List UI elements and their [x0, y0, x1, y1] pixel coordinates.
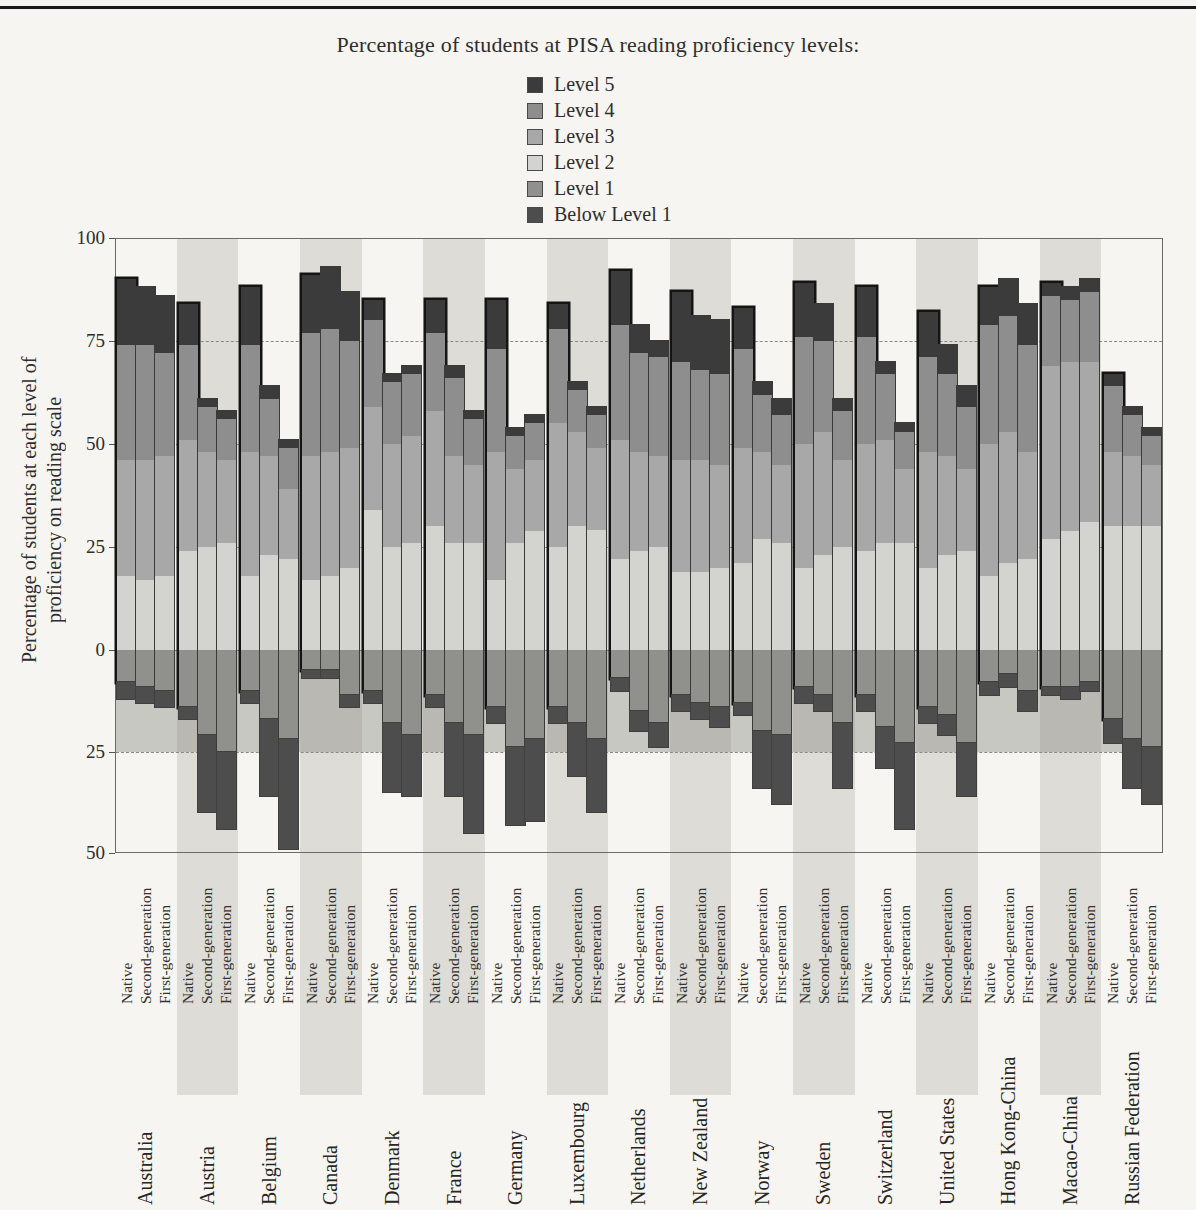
y-tick-label-75: 75	[61, 330, 105, 352]
segment-level-5	[1042, 283, 1061, 295]
segment-level-5	[279, 440, 298, 448]
segment-level-4	[857, 337, 876, 444]
segment-level-3	[1042, 366, 1061, 539]
bar-type-label-text: Second-generation	[445, 859, 463, 1004]
segment-level-3	[155, 456, 174, 575]
segment-level-5	[999, 279, 1018, 316]
segment-level-3	[302, 456, 321, 580]
bar-hong-kong-china-native	[980, 287, 999, 682]
y-tick-label-100: 100	[61, 227, 105, 249]
segment-level-4	[630, 353, 649, 452]
bar-luxembourg-second-generation	[568, 382, 587, 723]
segment-level-4	[155, 353, 174, 456]
segment-level-1	[241, 650, 260, 691]
segment-level-4	[117, 345, 136, 460]
segment-level-5	[710, 320, 729, 374]
bar-type-label: Second-generation	[999, 859, 1018, 1004]
segment-level-1	[857, 650, 876, 695]
segment-level-4	[814, 341, 833, 432]
segment-level-5	[155, 296, 174, 354]
segment-level-4	[672, 362, 691, 461]
segment-level-2	[260, 555, 279, 650]
segment-level-4	[506, 436, 525, 469]
bar-switzerland-second-generation	[876, 362, 895, 728]
segment-level-2	[895, 543, 914, 650]
segment-level-3	[691, 460, 710, 571]
bar-type-label: Second-generation	[876, 859, 895, 1004]
segment-level-2	[710, 568, 729, 650]
segment-level-2	[919, 568, 938, 650]
segment-level-4	[753, 395, 772, 453]
bar-type-label: First-generation	[340, 859, 359, 1004]
segment-level-2	[772, 543, 791, 650]
bar-type-label-text: Native	[1043, 859, 1061, 1004]
bar-type-label: First-generation	[833, 859, 852, 1004]
bar-type-label: Second-generation	[1123, 859, 1142, 1004]
y-tick-label-50-below: 50	[61, 842, 105, 864]
segment-level-3	[117, 460, 136, 575]
bar-type-label: First-generation	[1142, 859, 1161, 1004]
segment-level-1	[426, 650, 445, 695]
segment-level-5	[1061, 287, 1080, 299]
segment-below-level-1	[568, 723, 587, 776]
page-top-rule	[0, 6, 1196, 9]
segment-level-5	[649, 341, 668, 357]
segment-level-1	[895, 650, 914, 743]
bar-type-label: Second-generation	[198, 859, 217, 1004]
segment-level-4	[734, 349, 753, 448]
bar-type-label-text: First-generation	[156, 859, 174, 1004]
country-label-germany: Germany	[485, 1007, 547, 1205]
segment-level-1	[1018, 650, 1037, 691]
bar-sweden-native	[795, 283, 814, 686]
legend-item: Level 3	[527, 128, 672, 145]
country-label-netherlands: Netherlands	[608, 1007, 670, 1205]
segment-level-4	[136, 345, 155, 460]
segment-below-level-1	[772, 735, 791, 804]
segment-level-4	[999, 316, 1018, 431]
segment-below-level-1	[117, 682, 136, 698]
segment-below-level-1	[445, 723, 464, 796]
bar-type-label-text: Native	[303, 859, 321, 1004]
bar-type-label: Native	[611, 859, 630, 1004]
bar-type-label-text: First-generation	[772, 859, 790, 1004]
segment-level-1	[340, 650, 359, 695]
bar-type-label-text: Second-generation	[1000, 859, 1018, 1004]
segment-level-3	[630, 452, 649, 551]
segment-below-level-1	[857, 695, 876, 711]
segment-level-1	[919, 650, 938, 707]
segment-level-4	[179, 345, 198, 440]
segment-below-level-1	[487, 707, 506, 723]
segment-level-3	[445, 456, 464, 543]
bar-australia-first-generation	[155, 296, 174, 691]
segment-below-level-1	[260, 719, 279, 796]
bar-type-label-text: Native	[426, 859, 444, 1004]
country-label-text: Australia	[134, 1007, 157, 1205]
segment-below-level-1	[506, 747, 525, 824]
segment-level-2	[426, 526, 445, 650]
segment-level-1	[525, 650, 544, 739]
legend-label: Level 5	[554, 73, 615, 96]
segment-level-1	[302, 650, 321, 670]
segment-level-3	[487, 452, 506, 580]
segment-level-4	[833, 411, 852, 460]
bar-type-label-text: Second-generation	[507, 859, 525, 1004]
bar-type-label: Native	[179, 859, 198, 1004]
bar-type-label-text: First-generation	[711, 859, 729, 1004]
bar-belgium-first-generation	[279, 440, 298, 739]
segment-level-5	[487, 300, 506, 349]
bar-type-label-text: Second-generation	[877, 859, 895, 1004]
segment-level-1	[1123, 650, 1142, 739]
bar-type-label-text: First-generation	[1142, 859, 1160, 1004]
y-tick-50-below	[109, 853, 115, 854]
segment-level-3	[814, 432, 833, 556]
segment-level-5	[1018, 304, 1037, 345]
y-axis-title-line2: proficiency on reading scale	[43, 290, 66, 730]
bar-type-label-text: First-generation	[649, 859, 667, 1004]
bar-type-label: Native	[672, 859, 691, 1004]
segment-level-1	[691, 650, 710, 703]
segment-level-5	[364, 300, 383, 321]
bar-type-label-text: Native	[734, 859, 752, 1004]
segment-level-1	[402, 650, 421, 735]
segment-level-2	[1042, 539, 1061, 650]
segment-level-4	[772, 415, 791, 464]
